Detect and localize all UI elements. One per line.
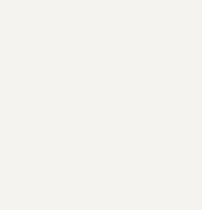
go-board xyxy=(0,0,202,192)
